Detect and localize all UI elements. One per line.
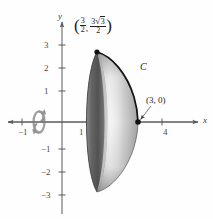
xtick-label-1: 1 [79,128,84,137]
surface-of-revolution-figure: (32, 3√32) (3, 0) C x y 3 2 1 −1 −2 −3 −… [0,0,213,219]
square-root-icon: √3 [95,17,105,26]
coordinate-comma: , [86,23,88,33]
xtick-label-neg1: −1 [18,128,28,137]
y-denominator: 2 [90,27,106,35]
point-3-0-leader-line [141,106,152,120]
xtick-label-4: 4 [163,128,168,137]
point-top-endpoint [94,49,99,54]
solid-of-revolution [87,49,141,192]
y-coordinate-fraction: 3√32 [90,17,106,36]
x-denominator: 2 [80,26,86,34]
y-numerator: 3√3 [90,17,106,27]
ytick-label-neg3: −3 [41,191,51,200]
point-right-endpoint [135,119,141,125]
ytick-label-neg1: −1 [41,145,51,154]
ytick-label-2: 2 [44,64,49,73]
close-paren: ) [106,16,112,35]
point-3-0-label: (3, 0) [146,96,166,105]
top-point-coordinate-label: (32, 3√32) [74,17,112,36]
curve-c-label: C [140,62,147,72]
x-axis-label: x [203,116,207,125]
radicand: 3 [100,16,105,26]
ytick-label-3: 3 [44,41,49,50]
ytick-label-1: 1 [44,87,49,96]
y-axis-label: y [58,12,62,21]
ytick-label-neg2: −2 [41,168,51,177]
x-coordinate-fraction: 32 [80,17,86,35]
